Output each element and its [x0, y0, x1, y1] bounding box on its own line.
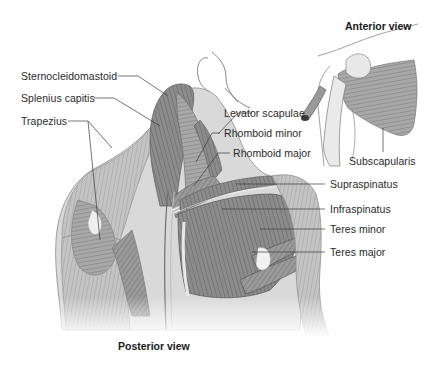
label-trapezius: Trapezius [21, 115, 67, 127]
label-supraspinatus: Supraspinatus [330, 178, 398, 190]
anatomy-figure: Anterior view Posterior view Sternocleid… [0, 0, 444, 375]
anterior-shoulder-illustration [301, 24, 418, 166]
label-teres-major: Teres major [330, 246, 385, 258]
anterior-view-title: Anterior view [345, 20, 412, 32]
label-sternocleidomastoid: Sternocleidomastoid [21, 70, 117, 82]
label-infraspinatus: Infraspinatus [330, 203, 391, 215]
label-rhomboid-minor: Rhomboid minor [224, 127, 302, 139]
label-splenius-capitis: Splenius capitis [21, 92, 95, 104]
label-subscapularis: Subscapularis [349, 155, 416, 167]
label-rhomboid-major: Rhomboid major [233, 147, 311, 159]
posterior-view-title: Posterior view [118, 340, 190, 352]
label-teres-minor: Teres minor [330, 223, 385, 235]
label-levator-scapulae: Levator scapulae [224, 107, 305, 119]
